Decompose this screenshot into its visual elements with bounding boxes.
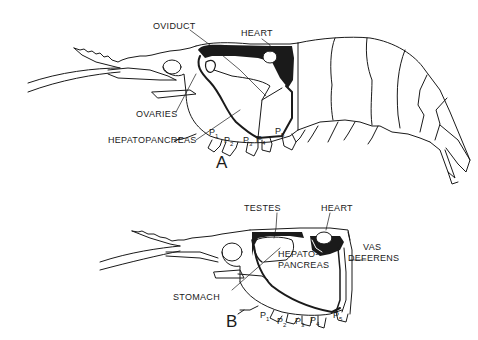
leg-label-a-p3: P3 bbox=[243, 136, 252, 147]
leg-label-a-p1: P1 bbox=[209, 128, 218, 139]
label-heart-a: HEART bbox=[241, 29, 273, 38]
label-heart-b: HEART bbox=[321, 204, 353, 213]
label-vas-deferens-line1: VAS bbox=[363, 243, 381, 252]
leg-label-b-p1: P1 bbox=[260, 311, 269, 322]
leg-label-a-p4: P4 bbox=[256, 135, 265, 146]
label-hepatopancreas-b-line1: HEPATO- bbox=[278, 250, 319, 259]
label-ovaries: OVARIES bbox=[136, 110, 177, 119]
leg-label-b-p2: P2 bbox=[277, 317, 286, 328]
leg-label-a-p5: P5 bbox=[275, 127, 284, 138]
label-hepatopancreas-a: HEPATOPANCREAS bbox=[108, 136, 197, 145]
label-stomach: STOMACH bbox=[173, 293, 220, 302]
leg-label-b-p5: P5 bbox=[333, 311, 342, 322]
panel-a-drawing bbox=[28, 37, 470, 184]
leg-label-a-p2: P2 bbox=[224, 136, 233, 147]
label-oviduct: OVIDUCT bbox=[153, 22, 196, 31]
label-vas-deferens-line2: DEFERENS bbox=[348, 254, 399, 263]
leg-label-b-p3: P3 bbox=[295, 317, 304, 328]
crayfish-anatomy-illustration bbox=[0, 0, 478, 340]
label-testes: TESTES bbox=[244, 204, 281, 213]
panel-letter-a: A bbox=[216, 154, 227, 171]
panel-letter-b: B bbox=[226, 313, 237, 330]
leg-label-b-p4: P4 bbox=[310, 316, 319, 327]
label-hepatopancreas-b-line2: PANCREAS bbox=[278, 261, 329, 270]
